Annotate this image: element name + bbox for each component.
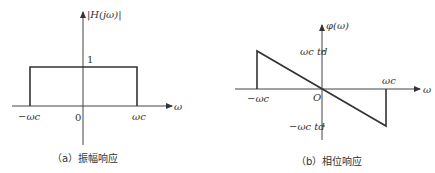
b-pos-phase-label: ωc td [300,46,327,57]
b-pos-cutoff-label: ωc [382,75,396,86]
b-origin-label: O [313,92,321,103]
b-caption: （b）相位响应 [296,155,362,167]
a-level-label: 1 [87,54,93,65]
a-origin-label: 0 [75,112,81,123]
b-x-label: ω [423,84,431,95]
a-pos-cutoff-label: ωc [132,111,146,122]
a-x-label: ω [174,101,182,112]
a-y-label: |H(jω)| [87,9,122,21]
a-neg-cutoff-label: −ωc [18,111,41,122]
filter-response-figure: |H(jω)| 1 ω 0 −ωc ωc （a）振幅响应 φ(ω) ωc td … [0,0,435,173]
b-neg-phase-label: −ωc td [289,121,325,132]
b-neg-cutoff-label: −ωc [247,93,270,104]
a-caption: （a）振幅响应 [52,152,118,164]
b-y-label: φ(ω) [326,20,349,31]
phase-response-plot: φ(ω) ωc td −ωc td ω O −ωc ωc （b）相位响应 [235,20,431,167]
amplitude-response-plot: |H(jω)| 1 ω 0 −ωc ωc （a）振幅响应 [12,9,182,164]
